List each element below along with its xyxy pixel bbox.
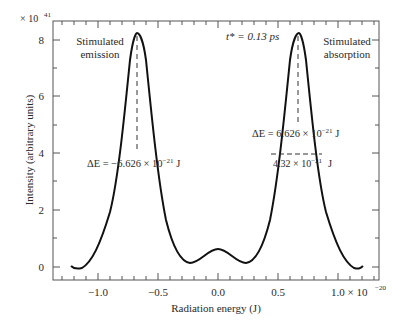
y-multiplier: × 10	[20, 13, 38, 24]
x-tick-label: −1.0	[88, 286, 108, 298]
y-axis-label: Intensity (arbitrary units)	[23, 94, 36, 205]
time-annotation: t* = 0.13 ps	[226, 30, 279, 42]
delta-e-left: ΔE = −6.626 × 10−21 J	[87, 157, 180, 169]
emission-label-1: Stimulated	[76, 35, 124, 47]
x-tick-label: 0.5	[271, 286, 285, 298]
width-annotation: 4.32 × 10−21	[273, 157, 323, 169]
y-ticks	[53, 40, 379, 267]
y-multiplier-exp: 41	[44, 11, 52, 19]
x-tick-label: −0.5	[148, 286, 168, 298]
width-annotation-unit: J	[328, 158, 332, 169]
absorption-label-2: absorption	[324, 48, 371, 60]
x-tick-label: 0.0	[211, 286, 225, 298]
emission-label-2: emission	[80, 48, 120, 60]
y-tick-label: 2	[39, 204, 45, 216]
x-axis-label: Radiation energy (J)	[171, 302, 261, 315]
y-tick-label: 8	[39, 34, 45, 46]
intensity-curve	[71, 33, 363, 269]
y-tick-label: 6	[39, 90, 45, 102]
y-tick-label: 4	[39, 147, 45, 159]
delta-e-right: ΔE = 6.626 × 10−21 J	[252, 127, 339, 139]
x-multiplier-exp: −20	[375, 284, 386, 292]
chart: 0 2 4 6 8 × 10 41 −1.0 −0.5 0.0 0.5 1.0 …	[0, 0, 401, 324]
x-tick-label: 1.0 × 10	[331, 286, 368, 298]
absorption-label-1: Stimulated	[323, 35, 371, 47]
y-tick-label: 0	[39, 261, 45, 273]
